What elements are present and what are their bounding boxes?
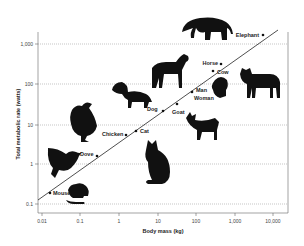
x-tick-100: 100 [192, 218, 201, 224]
x-ticks [42, 213, 273, 216]
x-tick-10: 10 [155, 218, 161, 224]
y-tick-1000: 1,000 [20, 41, 33, 47]
point-cow [212, 70, 215, 73]
chicken-icon [70, 102, 97, 142]
label-woman: Woman [194, 95, 214, 101]
label-cow: Cow [217, 69, 229, 75]
x-tick-0.01: 0.01 [37, 218, 47, 224]
y-axis-label: Total metabolic rate (watts) [15, 88, 21, 159]
elephant-icon [182, 18, 233, 41]
man-icon [212, 77, 228, 98]
point-goat [176, 103, 179, 106]
x-tick-10000: 10,000 [265, 218, 281, 224]
point-horse [220, 63, 223, 66]
label-dog: Dog [147, 106, 158, 112]
label-horse: Horse [202, 60, 218, 66]
label-dove: Dove [80, 151, 93, 157]
metabolic-rate-chart: 1,000 100 10 1 0.1 0.01 0.1 1 10 100 1,0… [0, 0, 304, 246]
x-tick-1: 1 [118, 218, 121, 224]
y-ticks [35, 44, 38, 204]
y-tick-10: 10 [27, 122, 33, 128]
x-tick-0.1: 0.1 [77, 218, 84, 224]
y-tick-0.1: 0.1 [26, 201, 33, 207]
dove-icon [48, 148, 82, 178]
goat-icon [186, 112, 219, 140]
label-chicken: Chicken [102, 131, 124, 137]
y-tick-100: 100 [25, 81, 34, 87]
cow-icon [240, 68, 280, 98]
point-cat [135, 130, 138, 133]
x-tick-1000: 1,000 [229, 218, 242, 224]
horse-icon [152, 54, 189, 88]
x-axis-label: Body mass (kg) [143, 228, 184, 234]
label-goat: Goat [172, 109, 185, 115]
label-elephant: Elephant [236, 32, 259, 38]
y-tick-1: 1 [30, 161, 33, 167]
cat-icon [145, 140, 170, 184]
label-cat: Cat [140, 128, 149, 134]
dog-icon [112, 82, 152, 108]
point-elephant [262, 34, 265, 37]
label-mouse: Mouse [53, 190, 70, 196]
label-man: Man [196, 87, 208, 93]
point-mouse [49, 192, 52, 195]
point-dog [162, 110, 165, 113]
point-chicken [125, 134, 128, 137]
point-man-woman [191, 91, 194, 94]
point-dove [96, 155, 99, 158]
